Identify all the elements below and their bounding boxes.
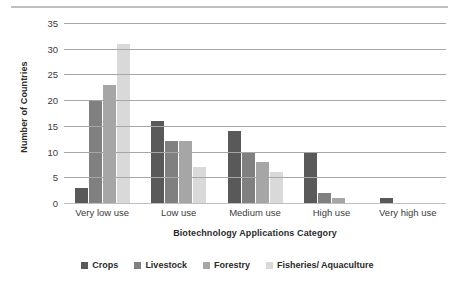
y-axis-tick-label: 15 (32, 120, 58, 131)
gridline (64, 126, 446, 127)
bar-group-bars (293, 23, 369, 203)
bar-group (140, 23, 216, 203)
legend-item[interactable]: Fisheries/ Aquaculture (266, 260, 374, 270)
legend-item[interactable]: Livestock (134, 260, 187, 270)
gridline (64, 74, 446, 75)
chart-top-border (11, 6, 448, 8)
legend-label: Crops (92, 260, 118, 270)
y-axis-tick-label: 25 (32, 69, 58, 80)
y-axis-tick-label: 35 (32, 18, 58, 29)
x-axis-tick-label: High use (293, 207, 369, 223)
gridline (64, 100, 446, 101)
bar[interactable] (193, 167, 206, 203)
y-axis-tick-label: 10 (32, 146, 58, 157)
bar[interactable] (318, 193, 331, 203)
legend-swatch-icon (81, 262, 88, 269)
bar[interactable] (179, 141, 192, 203)
legend-item[interactable]: Forestry (203, 260, 250, 270)
gridline (64, 23, 446, 24)
gridline (64, 152, 446, 153)
x-axis-title: Biotechnology Applications Category (64, 228, 446, 238)
y-axis-tick-label: 30 (32, 43, 58, 54)
legend-label: Fisheries/ Aquaculture (277, 260, 374, 270)
bar-chart: Number of Countries 05101520253035 Very … (0, 0, 455, 294)
y-axis-tick-label: 0 (32, 198, 58, 209)
y-axis-tick-label: 20 (32, 95, 58, 106)
bar[interactable] (228, 131, 241, 203)
bar[interactable] (103, 85, 116, 203)
legend-swatch-icon (203, 262, 210, 269)
bar-group (64, 23, 140, 203)
plot-area (64, 23, 446, 203)
bar[interactable] (256, 162, 269, 203)
x-axis-tick-label: Very low use (64, 207, 140, 223)
bar[interactable] (117, 44, 130, 203)
y-axis-tick-labels: 05101520253035 (28, 23, 58, 203)
bar-group-bars (370, 23, 446, 203)
legend-item[interactable]: Crops (81, 260, 118, 270)
bar-group (370, 23, 446, 203)
bar-groups (64, 23, 446, 203)
bar-group (293, 23, 369, 203)
bar-group-bars (140, 23, 216, 203)
x-axis-tick-label: Low use (140, 207, 216, 223)
legend-label: Livestock (145, 260, 187, 270)
chart-legend: CropsLivestockForestryFisheries/ Aquacul… (0, 260, 455, 270)
legend-swatch-icon (266, 262, 273, 269)
x-axis-tick-labels: Very low useLow useMedium useHigh useVer… (64, 207, 446, 223)
x-axis-tick-label: Very high use (370, 207, 446, 223)
bar-group (217, 23, 293, 203)
legend-label: Forestry (214, 260, 250, 270)
gridline (64, 49, 446, 50)
bar[interactable] (75, 188, 88, 203)
x-axis-tick-label: Medium use (217, 207, 293, 223)
legend-swatch-icon (134, 262, 141, 269)
bar-group-bars (217, 23, 293, 203)
gridline (64, 203, 446, 204)
bar[interactable] (151, 121, 164, 203)
bar-group-bars (64, 23, 140, 203)
gridline (64, 177, 446, 178)
y-axis-tick-label: 5 (32, 172, 58, 183)
bar[interactable] (165, 141, 178, 203)
